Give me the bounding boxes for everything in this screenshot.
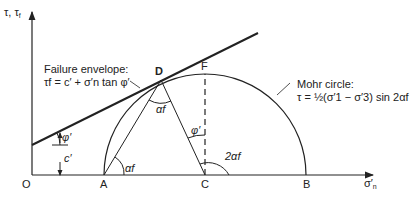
origin-label: O <box>22 178 31 190</box>
x-axis-label: σ′n <box>364 177 377 193</box>
failure-envelope-equation: τf = c′ + σ′n tan φ′ <box>44 76 130 88</box>
two-alpha-label: 2αf <box>225 150 240 162</box>
cohesion-label: c′ <box>64 152 72 164</box>
failure-envelope-title: Failure envelope: <box>44 63 128 75</box>
point-D-label: D <box>155 65 163 77</box>
mohr-circle-title: Mohr circle: <box>297 78 354 90</box>
point-A-label: A <box>100 178 107 190</box>
point-F-label: F <box>201 60 208 72</box>
phi-C-label: φ′ <box>191 124 200 136</box>
point-C-label: C <box>201 178 209 190</box>
y-axis-label: τ, τf <box>4 6 21 22</box>
failure-envelope-line <box>32 33 258 145</box>
mohr-circle-equation: τ = ½(σ′1 − σ′3) sin 2αf <box>297 91 409 103</box>
alpha-A-label: αf <box>125 162 134 174</box>
phi-envelope-label: φ′ <box>62 131 71 143</box>
alpha-D-label: αf <box>156 103 165 115</box>
point-B-label: B <box>303 178 310 190</box>
